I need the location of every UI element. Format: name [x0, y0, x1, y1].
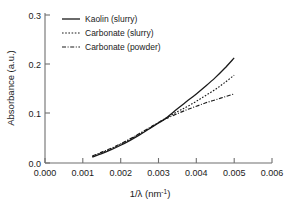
absorbance-chart-figure: 0.0 0.1 0.2 0.3 0.000 0.001 0.002 0.003 … [0, 0, 296, 210]
legend: Kaolin (slurry) Carbonate (slurry) Carbo… [62, 14, 161, 52]
axes-frame [45, 13, 272, 163]
legend-label-kaolin-slurry: Kaolin (slurry) [85, 14, 138, 24]
y-tick-label-2: 0.2 [28, 60, 41, 70]
series-line-carbonate-powder [92, 94, 234, 156]
x-tick-label-3: 0.003 [147, 168, 170, 178]
x-tick-label-1: 0.001 [72, 168, 95, 178]
series-line-carbonate-slurry [92, 75, 234, 156]
x-tick-label-4: 0.004 [185, 168, 208, 178]
x-axis-title-tail: ) [167, 188, 170, 199]
y-tick-label-3: 0.3 [28, 11, 41, 21]
x-axis-tick-labels: 0.000 0.001 0.002 0.003 0.004 0.005 0.00… [34, 168, 284, 178]
x-tick-label-2: 0.002 [109, 168, 132, 178]
y-axis-title: Absorbance (a.u.) [5, 50, 16, 126]
legend-label-carbonate-slurry: Carbonate (slurry) [85, 28, 154, 38]
y-axis-tick-labels: 0.0 0.1 0.2 0.3 [28, 11, 41, 169]
series-line-kaolin-slurry [92, 58, 234, 157]
y-tick-label-0: 0.0 [28, 159, 41, 169]
y-tick-label-1: 0.1 [28, 109, 41, 119]
chart-canvas: 0.0 0.1 0.2 0.3 0.000 0.001 0.002 0.003 … [0, 0, 296, 210]
x-axis-ticks [45, 158, 272, 163]
x-tick-label-6: 0.006 [261, 168, 284, 178]
data-series-group [92, 58, 234, 157]
x-axis-title-main: 1/λ (nm [130, 188, 162, 199]
legend-label-carbonate-powder: Carbonate (powder) [85, 42, 161, 52]
y-axis-ticks [45, 15, 50, 163]
x-axis-title: 1/λ (nm-1) [130, 188, 171, 200]
x-tick-label-5: 0.005 [223, 168, 246, 178]
x-tick-label-0: 0.000 [34, 168, 57, 178]
